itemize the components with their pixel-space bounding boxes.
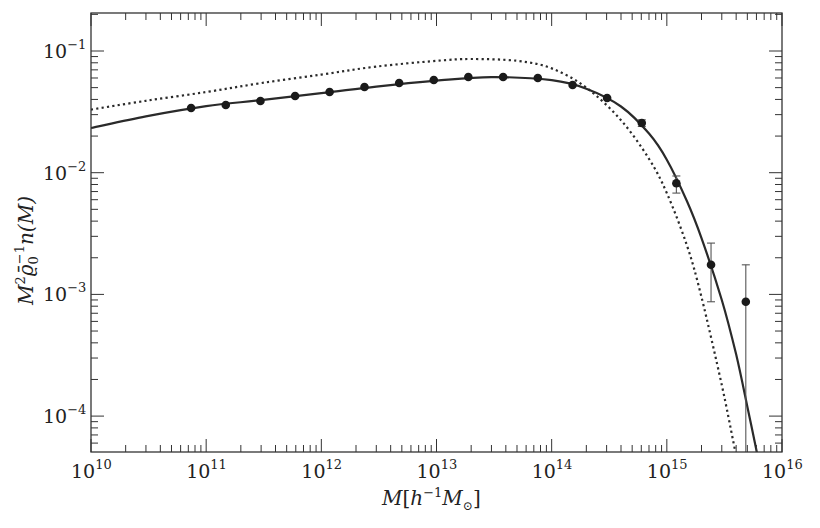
x-tick-label: 1010 xyxy=(71,457,112,482)
x-axis-title: M[h−1M⊙] xyxy=(381,485,481,513)
data-points xyxy=(187,73,750,452)
data-point xyxy=(742,297,751,306)
y-tick-label: 10−3 xyxy=(43,280,86,305)
x-tick-label: 1012 xyxy=(301,457,342,482)
mass-function-chart: 1010101110121013101410151016 10−110−210−… xyxy=(0,0,820,528)
data-point xyxy=(395,79,404,88)
data-point xyxy=(360,83,369,92)
data-point xyxy=(291,92,300,101)
y-tick-label: 10−4 xyxy=(43,402,86,427)
x-tick-label: 1015 xyxy=(647,457,688,482)
data-point xyxy=(325,88,334,97)
x-tick-labels: 1010101110121013101410151016 xyxy=(71,457,803,482)
y-tick-label: 10−2 xyxy=(43,159,86,184)
x-tick-label: 1014 xyxy=(532,457,573,482)
data-point xyxy=(187,104,196,113)
plot-curves xyxy=(91,59,758,480)
data-point xyxy=(256,97,265,106)
data-point xyxy=(534,74,543,83)
x-tick-label: 1016 xyxy=(762,457,803,482)
data-point xyxy=(672,179,681,188)
svg-text:M2ϱ̄0−1n(M): M2ϱ̄0−1n(M) xyxy=(12,196,41,306)
x-tick-label: 1013 xyxy=(417,457,458,482)
data-point xyxy=(221,101,230,110)
y-tick-labels: 10−110−210−310−4 xyxy=(43,37,86,427)
data-point xyxy=(464,73,473,82)
data-point xyxy=(499,73,508,82)
data-point xyxy=(637,119,646,128)
data-point xyxy=(568,81,577,90)
data-point xyxy=(603,94,612,103)
solid-model-curve xyxy=(91,77,758,458)
data-point xyxy=(707,261,716,270)
y-axis-title: M2ϱ̄0−1n(M) xyxy=(12,196,41,306)
y-tick-label: 10−1 xyxy=(43,37,86,62)
data-point xyxy=(429,76,438,85)
x-tick-label: 1011 xyxy=(186,457,227,482)
